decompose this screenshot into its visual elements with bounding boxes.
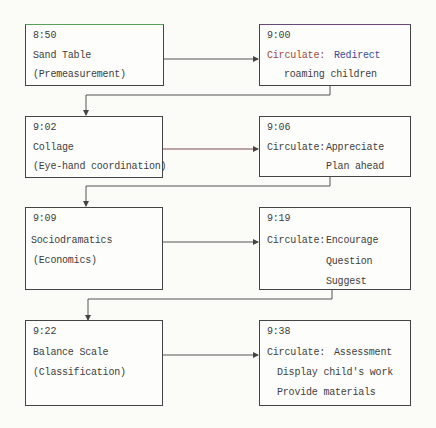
activity-title: Sand Table bbox=[33, 50, 91, 62]
activity-subtitle: (Economics) bbox=[33, 255, 97, 267]
activity-time: 9:09 bbox=[33, 213, 56, 225]
circulate-action: Suggest bbox=[326, 276, 367, 288]
circulate-action: Assessment bbox=[334, 347, 392, 359]
activity-title: Collage bbox=[33, 142, 74, 154]
activity-time: 9:22 bbox=[33, 326, 56, 338]
activity-subtitle: (Premeasurement) bbox=[33, 69, 126, 81]
circulate-time: 9:00 bbox=[267, 30, 290, 42]
circulate-action: Appreciate bbox=[326, 142, 384, 154]
activity-title: Sociodramatics bbox=[31, 235, 112, 247]
circulate-label: Circulate: bbox=[267, 142, 325, 154]
activity-box-collage: 9:02 Collage (Eye-hand coordination) bbox=[25, 116, 163, 178]
circulate-box-3: 9:19 Circulate: Encourage Question Sugge… bbox=[259, 207, 411, 290]
circulate-time: 9:06 bbox=[267, 122, 290, 134]
circulate-action: Redirect bbox=[334, 50, 380, 62]
circulate-action: Question bbox=[326, 256, 372, 268]
activity-box-sand-table: 8:50 Sand Table (Premeasurement) bbox=[25, 24, 164, 86]
activity-subtitle: (Classification) bbox=[33, 367, 126, 379]
activity-box-sociodramatics: 9:09 Sociodramatics (Economics) bbox=[25, 207, 163, 290]
circulate-box-1: 9:00 Circulate: Redirect roaming childre… bbox=[259, 24, 411, 86]
circulate-box-4: 9:38 Circulate: Assessment Display child… bbox=[259, 320, 411, 406]
circulate-box-2: 9:06 Circulate: Appreciate Plan ahead bbox=[259, 116, 411, 177]
circulate-action: Provide materials bbox=[277, 387, 376, 399]
activity-time: 9:02 bbox=[33, 122, 56, 134]
activity-time: 8:50 bbox=[33, 30, 56, 42]
circulate-label: Circulate: bbox=[267, 50, 325, 62]
circulate-label: Circulate: bbox=[267, 347, 325, 359]
circulate-time: 9:38 bbox=[267, 326, 290, 338]
activity-box-balance-scale: 9:22 Balance Scale (Classification) bbox=[25, 320, 163, 406]
activity-subtitle: (Eye-hand coordination) bbox=[33, 161, 166, 173]
activity-title: Balance Scale bbox=[33, 347, 108, 359]
circulate-action: Encourage bbox=[326, 235, 378, 247]
circulate-action: roaming children bbox=[284, 69, 377, 81]
circulate-time: 9:19 bbox=[267, 213, 290, 225]
circulate-label: Circulate: bbox=[267, 235, 325, 247]
circulate-action: Display child's work bbox=[277, 367, 393, 379]
circulate-action: Plan ahead bbox=[326, 161, 384, 173]
